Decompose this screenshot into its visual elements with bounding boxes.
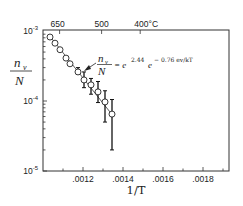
top-tick-label: 400°C	[134, 19, 158, 29]
data-points	[47, 34, 115, 150]
top-tick-label: 500	[95, 19, 109, 29]
equation-annotation: n v N = e 2.44 e − 0.76 ev/kT	[84, 52, 193, 77]
y-label-numerator: n	[14, 55, 21, 70]
y-tick-label: 10-4	[23, 95, 38, 106]
plot-frame	[43, 30, 229, 171]
x-tick-label: .0016	[152, 174, 174, 184]
x-axis-label: 1/T	[127, 183, 146, 197]
y-tick-label: 10-3	[23, 25, 38, 36]
data-point-circle-icon	[75, 69, 81, 75]
data-point-circle-icon	[88, 82, 94, 88]
data-point-circle-icon	[102, 99, 108, 105]
eq-exponent-2: − 0.76 ev/kT	[154, 56, 193, 63]
chart: 10-310-410-5 .0012.0014.0016.0018 650500…	[0, 0, 243, 206]
arrow-icon	[84, 63, 96, 71]
eq-denominator: N	[97, 65, 106, 77]
top-tick-label: 650	[51, 19, 65, 29]
eq-rhs-e1: = e	[114, 60, 126, 70]
data-point-circle-icon	[57, 47, 63, 53]
data-point-circle-icon	[95, 89, 101, 95]
data-point-circle-icon	[81, 77, 87, 83]
top-temperature-axis: 650500400°C	[51, 19, 159, 34]
y-axis-label: n v N	[10, 55, 32, 88]
x-tick-label: .0018	[192, 174, 214, 184]
x-tick-label: .0012	[72, 174, 94, 184]
eq-rhs-e2: e	[148, 60, 152, 70]
data-point-circle-icon	[63, 55, 69, 61]
eq-subscript: v	[105, 58, 108, 65]
data-point-circle-icon	[67, 61, 73, 67]
plot-border	[43, 30, 229, 171]
eq-numerator: n	[98, 52, 104, 64]
y-tick-label: 10-5	[23, 165, 38, 176]
x-axis: .0012.0014.0016.0018	[63, 167, 223, 184]
data-point-circle-icon	[109, 111, 115, 117]
eq-exponent-1: 2.44	[131, 56, 145, 63]
y-label-denominator: N	[14, 73, 25, 88]
data-point-circle-icon	[52, 40, 58, 46]
data-point-circle-icon	[47, 34, 53, 40]
